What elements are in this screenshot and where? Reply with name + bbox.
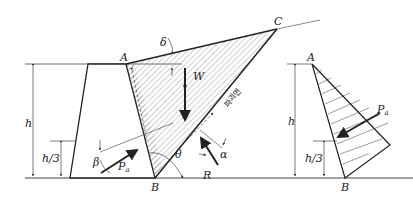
label-C: C (274, 15, 283, 28)
label-W: W (193, 70, 206, 83)
R-arrow (201, 138, 218, 165)
retaining-wall-diagram: W A B C δ h h/3 Pa β θ R α 파괴면 (0, 0, 413, 200)
label-alpha: α (220, 148, 228, 161)
label-h: h (25, 117, 32, 130)
right-pa-arrow (338, 113, 380, 137)
pressure-diagram: Pa h h/3 A B (287, 51, 390, 194)
right-label-h: h (288, 115, 295, 128)
label-h3: h/3 (42, 152, 60, 165)
right-label-Pa: Pa (376, 103, 389, 117)
label-R: R (202, 169, 211, 182)
right-label-h3: h/3 (305, 152, 323, 165)
label-theta: θ (175, 148, 182, 161)
right-label-A: A (306, 51, 315, 64)
label-delta: δ (160, 36, 167, 49)
label-beta: β (92, 156, 99, 169)
right-label-B: B (340, 181, 349, 194)
slope-extension (277, 20, 320, 29)
label-A: A (119, 51, 128, 64)
label-B: B (150, 181, 159, 194)
